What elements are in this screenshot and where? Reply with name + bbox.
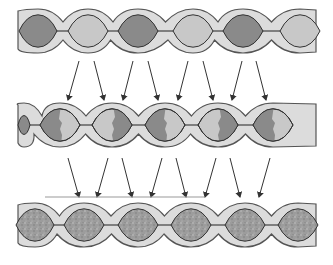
- segmented-tube-diagram: [0, 0, 333, 265]
- arrow-icon: [97, 158, 108, 197]
- arrow-icon: [203, 61, 213, 100]
- stage-2-tube: [17, 103, 316, 147]
- arrow-icon: [148, 61, 158, 100]
- arrow-icon: [151, 158, 162, 197]
- arrow-icon: [230, 158, 240, 197]
- arrow-icon: [122, 158, 132, 197]
- arrow-icon: [68, 158, 79, 197]
- stage-1-tube: [18, 9, 320, 53]
- arrow-icon: [176, 158, 186, 197]
- tube-rows: [16, 9, 320, 247]
- arrow-icon: [123, 61, 133, 100]
- arrow-icon: [205, 158, 216, 197]
- arrow-icon: [68, 61, 79, 100]
- diagram-canvas: [0, 0, 333, 265]
- stage-3-tube: [16, 203, 318, 247]
- arrow-icon: [94, 61, 104, 100]
- arrow-icon: [259, 158, 270, 197]
- arrow-icon: [256, 61, 266, 100]
- arrow-icon: [178, 61, 188, 100]
- arrow-icon: [232, 61, 242, 100]
